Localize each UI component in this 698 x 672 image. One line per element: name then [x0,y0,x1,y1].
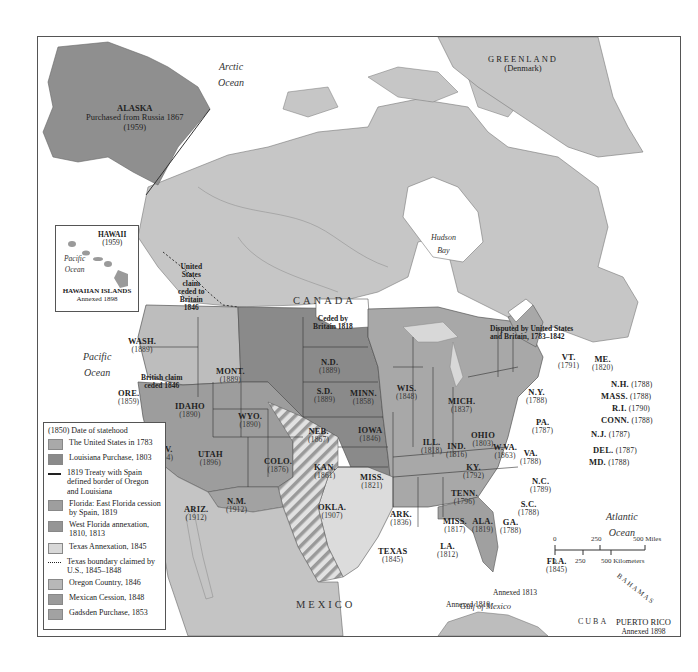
map-frame: ArcticOcean PacificOcean AtlanticOcean H… [37,36,681,637]
legend-item-us-1783: The United States in 1783 [48,438,161,450]
swatch-icon [48,454,63,465]
legend-item-1819-treaty: 1819 Treaty with Spain defined border of… [48,468,161,496]
state-minn: MINN.(1858) [350,389,377,406]
state-nd: N.D.(1889) [319,358,340,375]
state-ill: ILL.(1818) [421,438,442,455]
cuba-landmass [438,612,548,636]
pacific-ocean-label: PacificOcean [83,349,111,381]
legend-item-texas: Texas Annexation, 1845 [48,542,161,554]
state-ga: GA.(1788) [500,518,521,535]
swatch-icon [48,543,63,554]
state-ala: ALA.(1819) [472,517,493,534]
hawaii-inset: HAWAII(1959) PacificOcean HAWAIIAN ISLAN… [55,225,139,312]
state-del: DEL. (1787) [593,446,637,455]
swatch-icon [48,439,63,450]
state-nm: N.M.(1912) [226,497,247,514]
state-md: MD. (1788) [589,458,629,467]
state-ind: IND.(1816) [446,442,467,459]
canada-label: CANADA [293,295,356,306]
state-conn: CONN. (1788) [601,416,653,425]
state-ohio: OHIO(1803) [471,431,495,448]
scale-ruler-icon [553,545,653,555]
disputed-note: Disputed by United Statesand Britain, 17… [490,325,573,342]
legend-item-texas-boundary: Texas boundary claimed by U.S., 1845–184… [48,557,161,575]
state-pa: PA.(1787) [532,418,553,435]
scale-bar: 0 250 500 Miles 0 250 500 Kilometers [553,535,663,567]
british-claim-note: British claimceded 1846 [141,374,182,391]
state-nj: N.J. (1787) [591,430,630,439]
legend-item-louisiana: Louisiana Purchase, 1803 [48,453,161,465]
florida [438,497,498,572]
state-wis: WIS.(1848) [396,384,417,401]
state-ark: ARK.(1836) [390,510,412,527]
state-mo: MISS.(1821) [360,473,384,490]
swatch-icon [48,579,63,590]
state-wyo: WYO.(1890) [238,412,262,429]
state-vt: VT.(1791) [558,353,579,370]
us-claim-ceded-note: UnitedStatesclaimceded toBritain1846 [178,263,204,313]
state-iowa: IOWA(1846) [358,426,382,443]
greenland-label: GREENLAND(Denmark) [488,55,558,74]
arctic-ocean-label: ArcticOcean [218,59,244,91]
state-la: LA.(1812) [437,542,458,559]
swatch-icon [48,609,63,620]
state-me: ME.(1820) [592,355,613,372]
swatch-icon [48,594,63,605]
state-wash: WASH.(1889) [128,337,156,354]
legend-item-florida: Florida: East Florida cession by Spain, … [48,499,161,517]
state-mass: MASS. (1788) [601,392,651,401]
ceded-1818-note: Ceded byBritain 1818 [313,315,353,332]
state-idaho: IDAHO(1890) [175,402,205,419]
state-okla: OKLA.(1907) [318,503,346,520]
hudson-bay-label: HudsonBay [431,232,456,258]
state-nh: N.H. (1788) [611,380,652,389]
state-mont: MONT.(1889) [216,367,245,384]
puerto-rico-label: PUERTO RICOAnnexed 1898 [616,618,671,636]
swatch-icon [48,521,63,532]
state-sd: S.D.(1889) [314,387,335,404]
map-legend: (1850) Date of statehood The United Stat… [43,422,166,630]
state-va: VA.(1788) [520,449,541,466]
state-sc: S.C.(1788) [518,500,539,517]
annexed-1813-note: Annexed 1813 [493,589,537,597]
state-ore: ORE.(1859) [118,389,139,406]
state-kan: KAN.(1861) [314,463,336,480]
legend-item-west-florida: West Florida annexation, 1810, 1813 [48,520,161,538]
state-ariz: ARIZ.(1912) [184,505,208,522]
state-mich: MICH.(1837) [448,397,475,414]
legend-item-oregon: Oregon Country, 1846 [48,578,161,590]
state-tenn: TENN.(1796) [451,489,478,506]
mexico-label: MEXICO [296,599,355,610]
state-colo: COLO.(1876) [264,457,292,474]
legend-item-mexican-cession: Mexican Cession, 1848 [48,593,161,605]
swatch-icon [48,500,63,511]
state-wva: W.VA.(1863) [493,443,517,460]
state-ri: R.I. (1790) [612,404,650,413]
cuba-label: CUBA [578,617,608,626]
annexed-1810-note: Annexed 1810 [446,601,490,609]
state-ky: KY.(1792) [463,463,484,480]
hawaiian-islands-label: HAWAIIAN ISLANDSAnnexed 1898 [60,288,134,303]
state-utah: UTAH(1896) [198,450,223,467]
solid-line-icon [48,473,61,475]
legend-item-gadsden: Gadsden Purchase, 1853 [48,608,161,620]
state-nc: N.C.(1789) [530,477,551,494]
alaska-label: ALASKAPurchased from Russia 1867(1959) [86,104,184,132]
state-neb: NEB.(1867) [308,427,329,444]
state-miss: MISS.(1817) [443,517,467,534]
legend-header: (1850) Date of statehood [48,426,161,435]
state-ny: N.Y.(1788) [526,388,547,405]
dotted-line-icon [48,562,61,563]
state-texas: TEXAS(1845) [378,547,407,564]
